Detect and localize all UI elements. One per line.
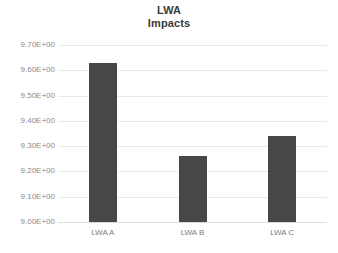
- y-axis-tick-label: 9.60E+00: [3, 66, 55, 74]
- x-axis-tick-label: LWA A: [68, 228, 138, 237]
- gridline: [58, 45, 327, 46]
- bar-lwa-c[interactable]: [268, 136, 296, 222]
- y-axis-tick-label: 9.50E+00: [3, 92, 55, 100]
- bar-lwa-a[interactable]: [89, 63, 117, 222]
- chart-title-line-1: LWA: [157, 4, 181, 16]
- gridline: [58, 222, 327, 223]
- x-axis-tick-label: LWA B: [158, 228, 228, 237]
- plot-area: [58, 45, 327, 222]
- chart-title: LWA Impacts: [0, 4, 338, 30]
- bar-lwa-b[interactable]: [179, 156, 207, 222]
- x-axis-tick-label: LWA C: [247, 228, 317, 237]
- y-axis-tick-label: 9.70E+00: [3, 41, 55, 49]
- y-axis-tick-label: 9.30E+00: [3, 142, 55, 150]
- bar-chart: LWA Impacts 9.70E+009.60E+009.50E+009.40…: [0, 0, 338, 253]
- y-axis-tick-label: 9.10E+00: [3, 193, 55, 201]
- y-axis-tick-label: 9.20E+00: [3, 167, 55, 175]
- y-axis-tick-label: 9.40E+00: [3, 117, 55, 125]
- chart-title-line-2: Impacts: [0, 17, 338, 30]
- y-axis-tick-label: 9.00E+00: [3, 218, 55, 226]
